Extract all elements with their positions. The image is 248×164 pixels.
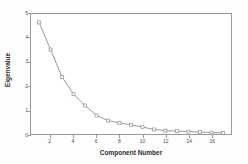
scree-plot: 012345 246810121416 Component Number Eig… <box>0 0 248 164</box>
x-tick-mark <box>166 135 167 138</box>
x-tick-label: 6 <box>88 139 104 144</box>
x-tick-label: 2 <box>42 139 58 144</box>
x-tick-mark <box>50 135 51 138</box>
x-axis-title: Component Number <box>30 149 232 157</box>
x-tick-label: 10 <box>135 139 151 144</box>
x-tick-mark <box>119 135 120 138</box>
x-axis-ticks: 246810121416 <box>0 0 248 164</box>
x-tick-mark <box>73 135 74 138</box>
x-tick-label: 8 <box>111 139 127 144</box>
x-tick-mark <box>189 135 190 138</box>
x-tick-mark <box>96 135 97 138</box>
y-axis-title: Eigenvalue <box>4 40 12 100</box>
x-tick-mark <box>212 135 213 138</box>
x-tick-label: 16 <box>204 139 220 144</box>
x-tick-mark <box>143 135 144 138</box>
x-tick-label: 4 <box>65 139 81 144</box>
x-tick-label: 14 <box>181 139 197 144</box>
x-tick-label: 12 <box>158 139 174 144</box>
